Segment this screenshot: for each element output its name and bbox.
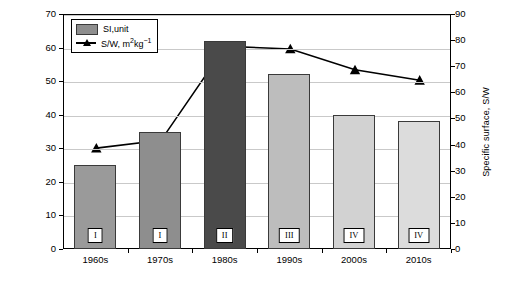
- bar: IV: [333, 115, 375, 249]
- x-tick-mark: [192, 249, 193, 253]
- legend-bar-swatch: [76, 24, 98, 35]
- gridline: [64, 149, 450, 150]
- y-tick-label-left: 50: [26, 76, 56, 86]
- gridline: [64, 116, 450, 117]
- bar: I: [139, 132, 181, 250]
- y-tick-mark-left: [59, 215, 63, 216]
- x-tick-mark: [257, 249, 258, 253]
- chart-legend: SI,unit S/W, m2kg−1: [71, 19, 158, 53]
- bar-category-tag: III: [279, 228, 300, 243]
- y-tick-mark-left: [59, 115, 63, 116]
- y-tick-mark-left: [59, 81, 63, 82]
- y-tick-label-right: 30: [455, 166, 485, 176]
- bar: III: [268, 74, 310, 249]
- bar: IV: [398, 121, 440, 249]
- legend-line-marker-icon: [76, 38, 96, 47]
- bar-category-tag: I: [153, 228, 168, 243]
- y-tick-label-left: 40: [26, 110, 56, 120]
- y-tick-mark-left: [59, 148, 63, 149]
- bar: I: [74, 165, 116, 249]
- gridline: [64, 82, 450, 83]
- y-tick-mark-right: [451, 171, 455, 172]
- y-tick-mark-right: [451, 197, 455, 198]
- bar-category-tag: IV: [408, 228, 429, 243]
- x-tick-mark: [128, 249, 129, 253]
- y-tick-label-right: 90: [455, 9, 485, 19]
- chart-container: Surface index, SI Specific surface, S/W …: [0, 0, 513, 301]
- y-tick-label-left: 10: [26, 210, 56, 220]
- x-tick-mark: [386, 249, 387, 253]
- y-tick-label-left: 60: [26, 43, 56, 53]
- x-tick-mark: [322, 249, 323, 253]
- y-tick-mark-right: [451, 145, 455, 146]
- y-tick-label-left: 30: [26, 143, 56, 153]
- y-tick-mark-left: [59, 48, 63, 49]
- y-tick-mark-right: [451, 223, 455, 224]
- y-tick-label-right: 80: [455, 35, 485, 45]
- y-tick-mark-left: [59, 182, 63, 183]
- y-tick-label-right: 40: [455, 140, 485, 150]
- y-tick-mark-right: [451, 92, 455, 93]
- x-tick-label: 2000s: [322, 254, 386, 265]
- gridline: [64, 216, 450, 217]
- y-tick-label-right: 10: [455, 218, 485, 228]
- bar-category-tag: IV: [344, 228, 365, 243]
- y-tick-label-left: 20: [26, 177, 56, 187]
- y-tick-label-right: 70: [455, 61, 485, 71]
- gridline: [64, 183, 450, 184]
- y-tick-mark-left: [59, 249, 63, 250]
- x-tick-label: 1970s: [128, 254, 192, 265]
- y-tick-mark-right: [451, 14, 455, 15]
- x-tick-label: 1960s: [63, 254, 127, 265]
- bar: II: [204, 41, 246, 249]
- y-tick-label-left: 70: [26, 9, 56, 19]
- x-tick-mark: [451, 249, 452, 253]
- y-tick-label-right: 60: [455, 87, 485, 97]
- y-tick-label-right: 0: [455, 244, 485, 254]
- y-tick-label-right: 20: [455, 192, 485, 202]
- x-tick-label: 1990s: [257, 254, 321, 265]
- legend-line-label: S/W, m2kg−1: [101, 34, 151, 51]
- y-tick-label-right: 50: [455, 113, 485, 123]
- bar-category-tag: II: [216, 228, 234, 243]
- bar-category-tag: I: [88, 228, 103, 243]
- y-tick-mark-left: [59, 14, 63, 15]
- y-axis-label-right: Specific surface, S/W: [481, 87, 491, 177]
- x-tick-label: 2010s: [387, 254, 451, 265]
- gridline: [64, 15, 450, 16]
- legend-item-line: S/W, m2kg−1: [76, 36, 151, 49]
- y-tick-mark-right: [451, 66, 455, 67]
- y-tick-mark-right: [451, 118, 455, 119]
- x-tick-label: 1980s: [193, 254, 257, 265]
- y-tick-label-left: 0: [26, 244, 56, 254]
- y-tick-mark-right: [451, 40, 455, 41]
